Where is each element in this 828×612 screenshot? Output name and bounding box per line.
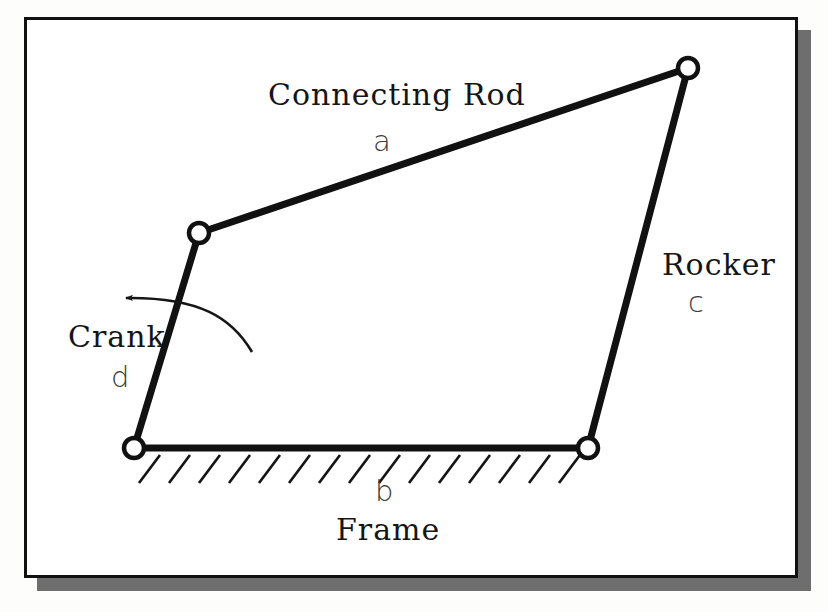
- label-frame: Frame: [336, 515, 440, 545]
- label-frame-letter: b: [375, 477, 393, 506]
- label-rocker: Rocker: [662, 250, 776, 280]
- label-crank-letter: d: [111, 363, 129, 392]
- figure-page: Connecting Rod a Rocker c Crank d b Fram…: [0, 0, 828, 612]
- label-rocker-letter: c: [688, 288, 704, 317]
- label-crank: Crank: [68, 322, 166, 352]
- label-connecting-rod: Connecting Rod: [268, 80, 526, 110]
- label-connecting-rod-letter: a: [373, 127, 391, 156]
